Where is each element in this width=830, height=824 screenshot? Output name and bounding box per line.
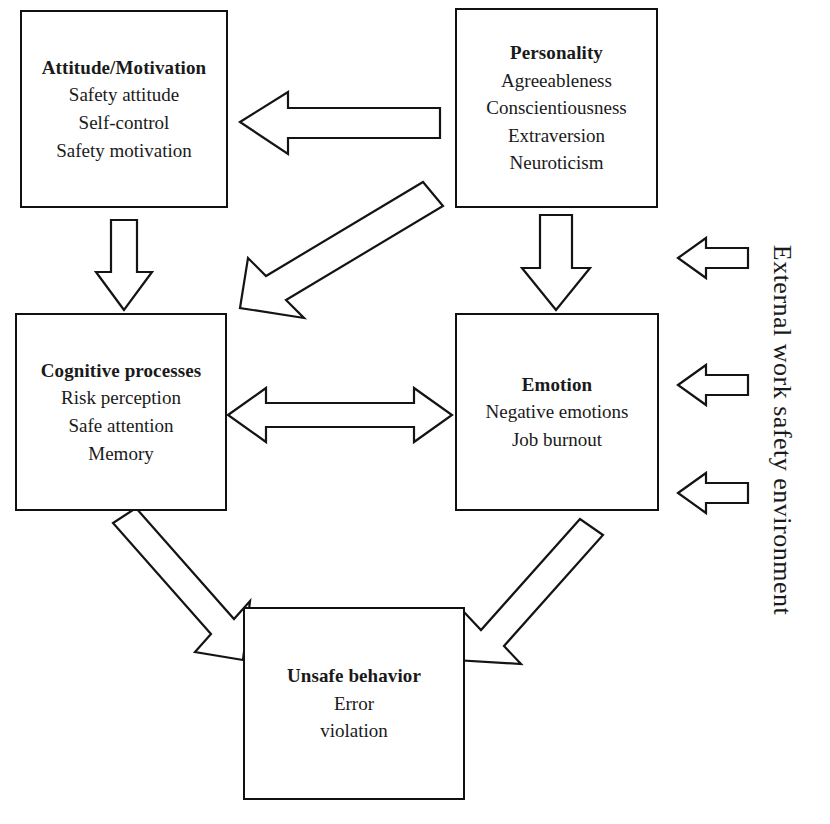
arrow-attitude-to-cognitive (96, 220, 152, 310)
node-cognitive-processes-item-2: Memory (88, 440, 153, 468)
external-environment-label-text: External work safety environment (767, 245, 797, 616)
arrow-personality-to-emotion (522, 215, 590, 310)
node-personality-item-2: Extraversion (508, 122, 605, 150)
node-cognitive-processes-item-0: Risk perception (61, 384, 181, 412)
node-personality-body: Personality Agreeableness Conscientiousn… (486, 39, 626, 177)
node-personality-item-3: Neuroticism (510, 149, 604, 177)
node-unsafe-behavior-item-1: violation (320, 717, 388, 745)
arrow-environment-to-personality (678, 238, 748, 278)
diagram-canvas: Attitude/Motivation Safety attitude Self… (0, 0, 830, 824)
node-attitude-motivation-item-0: Safety attitude (69, 81, 179, 109)
node-cognitive-processes[interactable]: Cognitive processes Risk perception Safe… (15, 313, 227, 511)
node-emotion-item-0: Negative emotions (486, 398, 629, 426)
node-personality-title: Personality (510, 39, 603, 67)
node-cognitive-processes-item-1: Safe attention (69, 412, 174, 440)
external-environment-label: External work safety environment (762, 120, 802, 740)
arrow-environment-to-emotion-secondary (678, 473, 748, 513)
node-emotion-item-1: Job burnout (512, 426, 602, 454)
node-emotion-title: Emotion (522, 371, 592, 399)
node-attitude-motivation-title: Attitude/Motivation (42, 54, 206, 82)
node-emotion-body: Emotion Negative emotions Job burnout (486, 371, 629, 454)
node-attitude-motivation-body: Attitude/Motivation Safety attitude Self… (42, 54, 206, 164)
node-unsafe-behavior-body: Unsafe behavior Error violation (287, 662, 421, 745)
node-emotion[interactable]: Emotion Negative emotions Job burnout (455, 313, 659, 511)
arrow-cognitive-to-unsafe (113, 508, 250, 660)
arrow-environment-to-emotion (678, 365, 748, 405)
node-personality[interactable]: Personality Agreeableness Conscientiousn… (455, 8, 658, 208)
arrow-personality-to-attitude (240, 92, 440, 154)
arrow-emotion-to-unsafe (455, 519, 603, 664)
node-attitude-motivation-item-1: Self-control (79, 109, 170, 137)
node-personality-item-1: Conscientiousness (486, 94, 626, 122)
node-cognitive-processes-body: Cognitive processes Risk perception Safe… (41, 357, 201, 467)
node-cognitive-processes-title: Cognitive processes (41, 357, 201, 385)
node-unsafe-behavior-item-0: Error (334, 690, 374, 718)
arrow-personality-to-cognitive (240, 182, 443, 318)
node-attitude-motivation-item-2: Safety motivation (56, 137, 192, 165)
arrow-cognitive-emotion-bidirectional (228, 388, 452, 442)
node-attitude-motivation[interactable]: Attitude/Motivation Safety attitude Self… (20, 10, 228, 208)
node-unsafe-behavior[interactable]: Unsafe behavior Error violation (243, 607, 465, 800)
node-unsafe-behavior-title: Unsafe behavior (287, 662, 421, 690)
node-personality-item-0: Agreeableness (501, 67, 612, 95)
